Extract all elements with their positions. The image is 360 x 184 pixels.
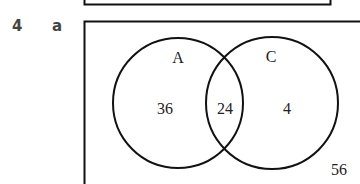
- set-c-label: C: [266, 48, 277, 65]
- intersection-value: 24: [217, 100, 233, 117]
- c-only-value: 4: [283, 100, 291, 117]
- a-only-value: 36: [157, 100, 173, 117]
- set-a-label: A: [172, 49, 184, 66]
- previous-box: [85, 0, 331, 5]
- venn-diagram: A C 36 24 4 56: [0, 0, 360, 184]
- outside-value: 56: [331, 161, 347, 178]
